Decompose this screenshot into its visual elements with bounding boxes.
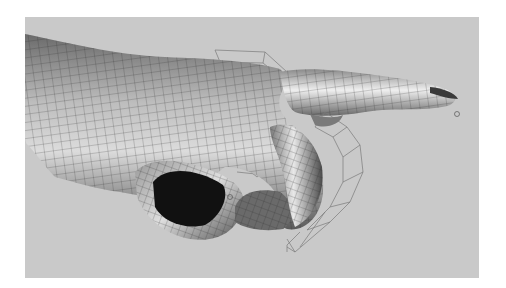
finger-pad [310,114,343,127]
3d-viewport[interactable] [25,17,479,278]
fingertip-locator [455,112,460,117]
hand-render [25,17,479,278]
